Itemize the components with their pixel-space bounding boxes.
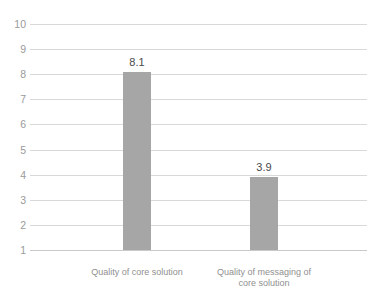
y-tick-label-3: 3 — [0, 195, 26, 206]
y-tick-label-1: 1 — [0, 245, 26, 256]
y-tick-label-4: 4 — [0, 169, 26, 180]
y-tick-label-7: 7 — [0, 94, 26, 105]
gridline-10 — [30, 24, 367, 25]
gridline-3 — [30, 200, 367, 201]
category-label-core-solution-line-1: Quality of core solution — [72, 267, 202, 278]
bar-value-label-messaging: 3.9 — [256, 162, 271, 173]
gridline-baseline-1 — [30, 250, 367, 251]
y-tick-label-10: 10 — [0, 19, 26, 30]
category-label-messaging-line-1: Quality of messaging of — [199, 267, 329, 278]
y-tick-label-2: 2 — [0, 220, 26, 231]
y-tick-label-8: 8 — [0, 69, 26, 80]
gridline-7 — [30, 99, 367, 100]
bar-quality-of-core-solution[interactable] — [123, 72, 151, 250]
y-axis-tick-labels: 10 9 8 7 6 5 4 3 2 1 — [0, 0, 26, 297]
bar-chart: 10 9 8 7 6 5 4 3 2 1 8.1 3.9 Quality of … — [0, 0, 381, 297]
y-tick-label-9: 9 — [0, 44, 26, 55]
gridline-5 — [30, 150, 367, 151]
category-label-core-solution: Quality of core solution — [72, 267, 202, 278]
category-label-messaging: Quality of messaging of core solution — [199, 267, 329, 290]
plot-area — [30, 24, 367, 250]
bar-value-label-core-solution: 8.1 — [129, 57, 144, 68]
gridline-9 — [30, 49, 367, 50]
gridline-8 — [30, 74, 367, 75]
y-tick-label-5: 5 — [0, 144, 26, 155]
gridline-6 — [30, 124, 367, 125]
gridline-2 — [30, 225, 367, 226]
bar-quality-of-messaging-of-core-solution[interactable] — [250, 177, 278, 250]
y-tick-label-6: 6 — [0, 119, 26, 130]
category-label-messaging-line-2: core solution — [199, 278, 329, 289]
gridline-4 — [30, 175, 367, 176]
